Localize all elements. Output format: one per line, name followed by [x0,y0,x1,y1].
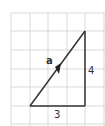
vertical-leg-label: 4 [88,66,94,76]
vector-label: a [46,56,53,66]
horizontal-leg-label: 3 [54,110,60,120]
vector-diagram: a 4 3 [0,0,105,126]
